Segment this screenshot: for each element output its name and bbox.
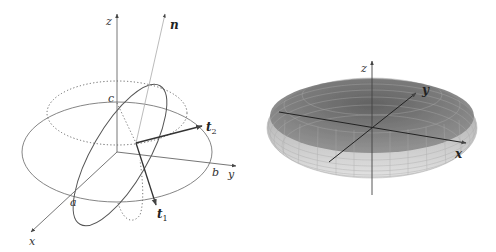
x-axis [31, 152, 117, 232]
right-label-x: x [454, 147, 463, 161]
figure-canvas: z n c t2 b y a t1 x [0, 0, 496, 252]
label-t1: t1 [157, 207, 168, 223]
right-label-y: y [421, 83, 430, 97]
label-a: a [70, 196, 77, 209]
n-vector [136, 14, 165, 143]
dotted-guide [117, 103, 136, 143]
left-ellipse-diagram: z n c t2 b y a t1 x [22, 14, 236, 248]
label-b: b [212, 166, 219, 179]
right-ellipsoid-figure: z y x [267, 61, 477, 195]
label-y: y [227, 168, 235, 181]
label-x: x [29, 235, 36, 248]
label-z: z [105, 15, 112, 28]
y-axis [117, 152, 236, 166]
right-label-z: z [360, 62, 367, 75]
t2-vector [136, 126, 202, 143]
label-t2: t2 [206, 120, 217, 136]
label-n: n [170, 18, 179, 32]
label-c: c [108, 92, 114, 105]
